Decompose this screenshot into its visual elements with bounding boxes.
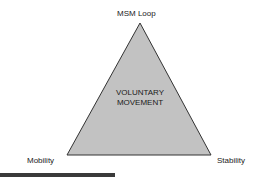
center-label: VOLUNTARY MOVEMENT — [100, 88, 180, 108]
separator-bar — [0, 173, 115, 177]
center-label-line-2: MOVEMENT — [100, 98, 180, 108]
left-vertex-label: Mobility — [27, 156, 54, 165]
center-label-line-1: VOLUNTARY — [100, 88, 180, 98]
right-vertex-label: Stability — [217, 156, 245, 165]
apex-label: MSM Loop — [117, 9, 156, 18]
